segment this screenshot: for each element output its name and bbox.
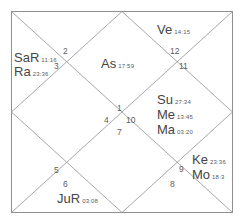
planet-saturn-abbr: SaR — [14, 50, 39, 65]
planet-moon-degree: 18:3 — [212, 174, 224, 180]
planet-sun: Su27:34 — [157, 93, 191, 106]
planet-mercury: Me13:45 — [157, 108, 193, 121]
planet-moon: Mo18:3 — [192, 168, 225, 181]
planet-sun-degree: 27:34 — [175, 99, 191, 105]
planet-rahu: Ra23:36 — [14, 65, 49, 78]
house-number-6: 6 — [63, 180, 68, 189]
planet-jupiter-degree: 03:08 — [82, 198, 98, 204]
house-number-12: 12 — [170, 47, 179, 56]
planet-mars: Ma03:20 — [157, 123, 193, 136]
planet-sun-abbr: Su — [157, 92, 173, 107]
planet-ketu-degree: 23:36 — [210, 159, 226, 165]
house-number-7: 7 — [117, 128, 122, 137]
planet-rahu-degree: 23:36 — [33, 71, 49, 77]
planet-saturn-degree: 11:16 — [41, 57, 57, 63]
house-number-5: 5 — [54, 166, 59, 175]
planet-mars-degree: 03:20 — [177, 129, 193, 135]
house-number-2: 2 — [63, 47, 68, 56]
ascendant-abbr: As — [101, 56, 116, 71]
ascendant-marker: As17:59 — [101, 57, 134, 70]
planet-saturn: SaR11:16 — [14, 51, 57, 64]
house-number-9: 9 — [179, 165, 184, 174]
house-number-10: 10 — [126, 116, 135, 125]
planet-venus: Ve14:15 — [157, 23, 190, 36]
planet-mars-abbr: Ma — [157, 122, 175, 137]
planet-venus-degree: 14:15 — [174, 29, 190, 35]
vedic-birth-chart: 1 2 3 4 5 6 7 8 9 10 11 12 SaR11:16 Ra23… — [0, 0, 241, 224]
planet-rahu-abbr: Ra — [14, 64, 31, 79]
planet-mercury-abbr: Me — [157, 107, 175, 122]
planet-venus-abbr: Ve — [157, 22, 172, 37]
house-number-4: 4 — [104, 116, 109, 125]
house-number-8: 8 — [170, 180, 175, 189]
planet-jupiter-abbr: JuR — [57, 191, 80, 206]
planet-ketu-abbr: Ke — [192, 152, 208, 167]
planet-ketu: Ke23:36 — [192, 153, 226, 166]
house-number-1: 1 — [117, 104, 122, 113]
house-number-11: 11 — [179, 62, 188, 71]
ascendant-degree: 17:59 — [118, 63, 134, 69]
planet-mercury-degree: 13:45 — [177, 114, 193, 120]
planet-jupiter: JuR03:08 — [57, 192, 98, 205]
planet-moon-abbr: Mo — [192, 167, 210, 182]
